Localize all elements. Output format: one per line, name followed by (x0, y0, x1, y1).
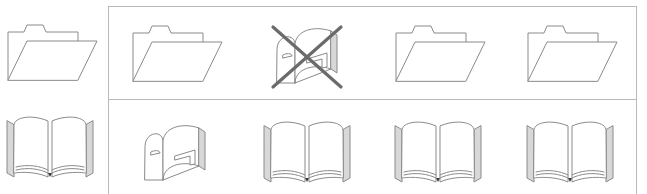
folder-icon (390, 15, 486, 91)
folder-icon (127, 15, 223, 91)
answer-cell-r2c4[interactable] (504, 100, 636, 194)
open-book-icon (522, 112, 618, 188)
answer-cell-r1c2[interactable] (241, 7, 373, 99)
open-book-icon (259, 112, 355, 188)
mailbox-icon-crossed-out (259, 15, 355, 91)
answer-cell-r1c3[interactable] (373, 7, 505, 99)
mailbox-icon (127, 112, 223, 188)
answer-cell-r1c4[interactable] (504, 7, 636, 99)
reference-cell-row-1 (0, 6, 100, 98)
folder-icon (522, 15, 618, 91)
answer-grid (108, 6, 637, 194)
open-book-icon (390, 112, 486, 188)
reference-cell-row-2 (0, 99, 100, 191)
reference-column (0, 0, 108, 194)
answer-cell-r2c2[interactable] (241, 100, 373, 194)
answer-grid-row-2 (109, 99, 636, 194)
open-book-icon (2, 107, 98, 183)
answer-cell-r2c1[interactable] (109, 100, 241, 194)
answer-cell-r2c3[interactable] (373, 100, 505, 194)
answer-grid-row-1 (109, 7, 636, 99)
answer-cell-r1c1[interactable] (109, 7, 241, 99)
icon-analogy-matrix (0, 0, 647, 194)
folder-icon (2, 14, 98, 90)
